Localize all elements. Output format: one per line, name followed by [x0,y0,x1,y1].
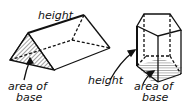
area-label-1-line2: base [16,93,42,103]
area-label-2-line2: base [142,93,168,103]
triangular-prism [10,15,110,80]
height-label-1: height [38,11,73,21]
height-label-2: height [88,76,123,86]
prism-diagram: height area of base height area of base [0,0,193,109]
